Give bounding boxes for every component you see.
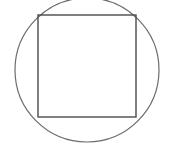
geometry-figure: Square inscribed in a circle A plain lin…: [0, 0, 172, 152]
figure-background: [0, 0, 172, 152]
